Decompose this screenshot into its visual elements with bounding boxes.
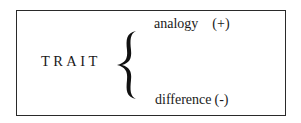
branch-sign: (-) — [214, 92, 228, 107]
branch-analogy: analogy(+) — [154, 17, 230, 31]
branch-label: analogy — [154, 16, 198, 31]
curly-brace-icon — [114, 30, 140, 100]
root-label-trait: TRAIT — [41, 54, 101, 69]
branch-label: difference — [155, 92, 211, 107]
branch-sign: (+) — [212, 16, 229, 31]
branch-difference: difference(-) — [155, 93, 228, 107]
